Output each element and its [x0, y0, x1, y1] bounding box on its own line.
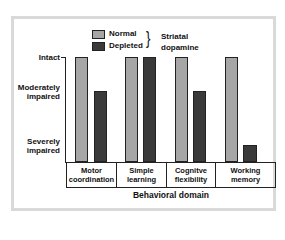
y-label-severely-impaired: Severely impaired — [14, 137, 60, 155]
bar-depleted-simple-learning — [143, 57, 156, 162]
legend-swatch-depleted — [92, 42, 105, 51]
y-axis-line — [65, 57, 66, 163]
bar-normal-motor-coordination — [75, 57, 88, 162]
bar-depleted-working-memory — [243, 145, 257, 162]
bar-normal-working-memory — [225, 57, 238, 162]
legend-swatch-normal — [92, 30, 105, 39]
bar-depleted-cognitive-flexibility — [193, 91, 206, 162]
category-simple-learning: Simple learning — [116, 162, 167, 188]
legend-group-label: Striatal dopamine — [161, 31, 199, 53]
y-label-moderately-impaired: Moderately impaired — [14, 83, 60, 101]
bar-depleted-motor-coordination — [94, 91, 107, 162]
bar-normal-cognitive-flexibility — [175, 57, 188, 162]
x-axis-label: Behavioral domain — [66, 190, 276, 200]
y-tick-intact — [61, 57, 65, 58]
category-working-memory: Working memory — [215, 162, 276, 188]
category-motor-coordination: Motor coordination — [66, 162, 117, 188]
legend-label-normal: Normal — [109, 29, 137, 38]
legend-label-depleted: Depleted — [109, 41, 143, 50]
legend-brace: } — [146, 27, 150, 49]
category-cognitive-flexibility: Cognitve flexibility — [166, 162, 216, 188]
bar-normal-simple-learning — [125, 57, 138, 162]
y-label-intact: Intact — [14, 53, 60, 62]
